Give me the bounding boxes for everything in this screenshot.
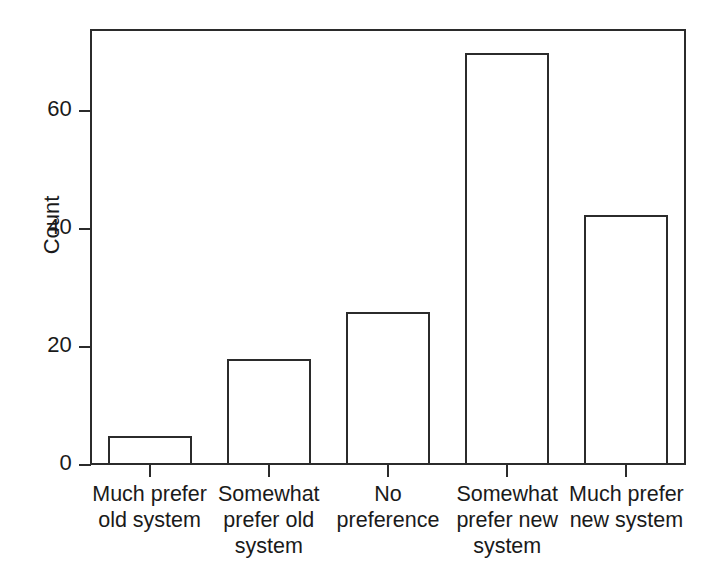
x-axis-category-label-line: Somewhat — [209, 481, 328, 507]
y-axis-tick-label: 0 — [20, 450, 72, 476]
x-axis-category-label-line: Much prefer — [567, 481, 686, 507]
bar — [465, 53, 549, 465]
x-axis-category-label-line: system — [448, 533, 567, 559]
x-axis-category-label: Much prefernew system — [567, 481, 686, 533]
x-axis-category-label: Somewhatprefer newsystem — [448, 481, 567, 559]
x-axis-category-labels: Much preferold systemSomewhatprefer olds… — [90, 481, 690, 576]
x-axis-tick — [149, 465, 151, 477]
x-axis-tick — [506, 465, 508, 477]
bar-chart: Count 0204060 Much preferold systemSomew… — [0, 0, 722, 580]
x-axis-category-label-line: prefer new — [448, 507, 567, 533]
bar — [108, 436, 192, 465]
x-axis-category-label-line: prefer old — [209, 507, 328, 533]
x-axis-category-label-line: new system — [567, 507, 686, 533]
y-axis-tick-label: 60 — [20, 96, 72, 122]
y-axis-tick-label: 20 — [20, 332, 72, 358]
x-axis-category-label: Much preferold system — [90, 481, 209, 533]
x-axis-tick — [625, 465, 627, 477]
y-axis-tick-label: 40 — [20, 214, 72, 240]
x-axis-category-label-line: No preference — [328, 481, 447, 533]
x-axis-category-label-line: system — [209, 533, 328, 559]
bar — [346, 312, 430, 465]
bar — [584, 215, 668, 465]
x-axis-tick — [268, 465, 270, 477]
x-axis-category-label-line: old system — [90, 507, 209, 533]
bars-layer — [90, 29, 686, 465]
x-axis-tick — [387, 465, 389, 477]
x-axis-category-label-line: Much prefer — [90, 481, 209, 507]
x-axis-category-label: No preference — [328, 481, 447, 533]
x-axis-category-label-line: Somewhat — [448, 481, 567, 507]
bar — [227, 359, 311, 465]
x-axis-category-label: Somewhatprefer oldsystem — [209, 481, 328, 559]
